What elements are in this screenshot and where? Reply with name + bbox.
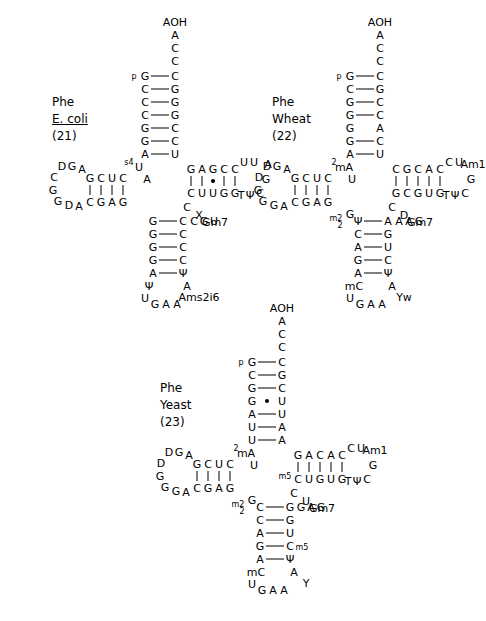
ac-stem-left-wheat-4: A <box>354 268 362 279</box>
acceptor-single-ecoli-2: C <box>171 56 179 67</box>
t-stem-bot-wheat-3: U <box>425 188 433 199</box>
d-stem-bot-ecoli-3: G <box>119 197 128 208</box>
d-stem-bot-wheat-2: A <box>313 197 321 208</box>
t-stem-top-wheat-2: C <box>414 164 422 175</box>
acceptor-3p-yeast-6: A <box>278 435 286 446</box>
d-loop-ecoli-6: D <box>65 200 73 211</box>
acceptor-bond-yeast-1 <box>258 375 276 376</box>
t-stem-top-ecoli-3: C <box>220 164 228 175</box>
t-bond-wheat-2 <box>418 176 419 186</box>
ac-stem-right-wheat-1: G <box>384 229 393 240</box>
t-stem-top-wheat-4: C <box>436 164 444 175</box>
ac-bond-yeast-1 <box>266 520 284 521</box>
d-loop-ecoli-3: C <box>50 172 58 183</box>
t-stem-top-ecoli-0: G <box>187 164 196 175</box>
ac-loop-yeast-5: Y <box>303 578 310 589</box>
t-stem-bot-ecoli-1: U <box>198 188 206 199</box>
t-stem-top-yeast-2: C <box>316 450 324 461</box>
ac-bond-wheat-3 <box>364 260 382 261</box>
acceptor-bond-ecoli-2 <box>151 102 169 103</box>
ac-loop-yeast-6: A <box>290 567 298 578</box>
d-stem-top-yeast-3: C <box>226 459 234 470</box>
acceptor-5p-wheat-6: A <box>346 149 354 160</box>
acceptor-5p-ecoli-4: G <box>141 123 150 134</box>
ac-loop-wheat-1: U <box>346 293 354 304</box>
panel-label-wheat-2: (22) <box>272 130 297 143</box>
ac-loop-yeast-2: G <box>258 585 267 596</box>
ac-stem-left-yeast-2: A <box>256 528 264 539</box>
d-loop-wheat-2: A <box>283 164 291 175</box>
acceptor-single-ecoli-1: C <box>171 43 179 54</box>
t-stem-top-wheat-1: G <box>403 164 412 175</box>
m22g-yeast-b: 2 <box>239 508 244 516</box>
ac-bond-yeast-4 <box>266 559 284 560</box>
t-stem-bot-wheat-2: G <box>414 188 423 199</box>
d-stem-top-wheat-2: U <box>313 173 321 184</box>
acceptor-bond-ecoli-0 <box>151 76 169 77</box>
t-stem-bot-wheat-0: G <box>392 188 401 199</box>
d-stem-top-yeast-1: C <box>204 459 212 470</box>
dconn-ecoli-2: A <box>143 174 151 185</box>
acceptor-single-wheat-1: C <box>376 43 384 54</box>
ac-loop-wheat-3: A <box>367 299 375 310</box>
acceptor-bond-ecoli-3 <box>151 115 169 116</box>
t-bond-yeast-0 <box>298 462 299 472</box>
acceptor-end-yeast: AOH <box>270 303 294 314</box>
phosphate-tag-wheat: p <box>336 73 341 81</box>
d-loop-yeast-5: G <box>161 482 170 493</box>
acceptor-3p-ecoli-5: C <box>171 136 179 147</box>
ac-bond-wheat-1 <box>364 234 382 235</box>
ac-stem-right-yeast-2: U <box>286 528 294 539</box>
wobble-dot-yeast <box>265 399 269 403</box>
dconn-wheat-2: U <box>348 174 356 185</box>
d-loop-ecoli-2: A <box>78 164 86 175</box>
acceptor-3p-wheat-1: G <box>376 84 385 95</box>
ac-loop-wheat-5: Yw <box>396 292 412 303</box>
d-loop-ecoli-1: G <box>68 161 77 172</box>
m22g-wheat-G: G <box>346 209 355 220</box>
d-stem-bot-ecoli-0: C <box>86 197 94 208</box>
d-stem-bot-wheat-3: G <box>324 197 333 208</box>
phosphate-tag-yeast: p <box>238 359 243 367</box>
d-stem-top-wheat-1: C <box>302 173 310 184</box>
acceptor-bond-wheat-3 <box>356 115 374 116</box>
acceptor-bond-yeast-5 <box>258 427 276 428</box>
acceptor-bond-wheat-0 <box>356 76 374 77</box>
t-stem-top-ecoli-1: A <box>198 164 206 175</box>
d-bond-yeast-3 <box>230 471 231 481</box>
ac-stem-right-yeast-3: C <box>286 541 294 552</box>
t-bond-ecoli-3 <box>224 176 225 186</box>
d-stem-top-yeast-2: U <box>215 459 223 470</box>
ac-stem-right-wheat-0: A <box>384 216 392 227</box>
panel-label-wheat-1: Wheat <box>272 113 311 126</box>
ac-stem-left-ecoli-1: G <box>149 229 158 240</box>
acceptor-single-yeast-0: A <box>278 316 286 327</box>
dconn-yeast-2: U <box>250 460 258 471</box>
panel-label-yeast-2: (23) <box>160 416 185 429</box>
acceptor-3p-wheat-0: C <box>376 71 384 82</box>
t-loop-yeast-2: Am1 <box>362 445 387 456</box>
d-bond-ecoli-2 <box>112 185 113 195</box>
ac-bond-ecoli-1 <box>159 234 177 235</box>
d-bond-wheat-0 <box>295 185 296 195</box>
ac-stem-left-ecoli-0: G <box>149 216 158 227</box>
d-loop-yeast-1: G <box>175 447 184 458</box>
t-stem-top-ecoli-4: C <box>231 164 239 175</box>
ac-stem-right-ecoli-0: C <box>179 216 187 227</box>
t-bond-yeast-3 <box>331 462 332 472</box>
d-stem-bot-yeast-3: G <box>226 483 235 494</box>
acceptor-5p-yeast-5: U <box>248 422 256 433</box>
ac-loop-yeast-4: A <box>280 585 288 596</box>
ac-loop-ecoli-0: Ψ <box>145 281 154 292</box>
d-stem-top-ecoli-1: C <box>97 173 105 184</box>
t-stem-top-wheat-0: C <box>392 164 400 175</box>
ac-conn-wheat-1: A <box>405 216 413 227</box>
d-loop-ecoli-5: G <box>54 196 63 207</box>
acceptor-single-wheat-0: A <box>376 30 384 41</box>
t-stem-top-yeast-4: C <box>338 450 346 461</box>
d-stem-bot-wheat-0: C <box>291 197 299 208</box>
acceptor-5p-ecoli-5: G <box>141 136 150 147</box>
t-wobble-ecoli <box>211 179 215 183</box>
t-loop-wheat-4: C <box>461 188 469 199</box>
ac-stem-left-ecoli-2: G <box>149 242 158 253</box>
